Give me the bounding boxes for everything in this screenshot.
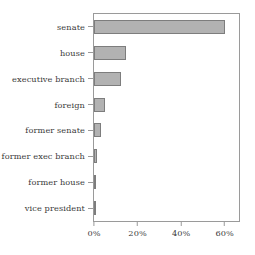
bar-former-senate: [94, 123, 101, 137]
y-tick-mark: [88, 104, 93, 105]
y-tick-former-senate: former senate: [25, 123, 93, 137]
y-tick-label: former house: [28, 177, 85, 187]
bars-layer: [94, 14, 240, 221]
y-tick-label: vice president: [25, 203, 85, 213]
y-tick-label: former senate: [25, 125, 85, 135]
y-tick-former-exec-branch: former exec branch: [2, 149, 93, 163]
x-axis-ticks: 0%20%40%60%: [0, 222, 255, 255]
y-tick-label: former exec branch: [2, 151, 85, 161]
x-tick-20pct: 20%: [128, 222, 147, 238]
y-tick-mark: [88, 208, 93, 209]
x-tick-mark: [93, 222, 94, 226]
bar-rect: [94, 175, 96, 189]
x-tick-label: 40%: [172, 228, 191, 238]
bar-former-exec-branch: [94, 149, 97, 163]
y-tick-mark: [88, 130, 93, 131]
y-tick-mark: [88, 182, 93, 183]
x-tick-0pct: 0%: [87, 222, 100, 238]
bar-chart: senatehouseexecutive branchforeignformer…: [0, 0, 255, 255]
x-tick-mark: [224, 222, 225, 226]
y-tick-foreign: foreign: [54, 98, 93, 112]
y-tick-senate: senate: [57, 20, 93, 34]
bar-foreign: [94, 98, 105, 112]
bar-rect: [94, 201, 96, 215]
bar-rect: [94, 123, 101, 137]
bar-vice-president: [94, 201, 96, 215]
y-tick-label: senate: [57, 22, 85, 32]
x-tick-label: 0%: [87, 228, 100, 238]
x-tick-mark: [181, 222, 182, 226]
y-tick-label: foreign: [54, 100, 85, 110]
bar-house: [94, 46, 126, 60]
x-tick-60pct: 60%: [215, 222, 234, 238]
bar-senate: [94, 20, 225, 34]
bar-rect: [94, 98, 105, 112]
y-axis-labels: senatehouseexecutive branchforeignformer…: [0, 14, 93, 221]
y-tick-former-house: former house: [28, 175, 93, 189]
y-tick-house: house: [60, 46, 93, 60]
x-tick-label: 20%: [128, 228, 147, 238]
y-tick-label: house: [60, 48, 85, 58]
y-tick-vice-president: vice president: [25, 201, 93, 215]
bar-rect: [94, 46, 126, 60]
bar-rect: [94, 72, 121, 86]
x-tick-label: 60%: [215, 228, 234, 238]
bar-rect: [94, 20, 225, 34]
y-tick-executive-branch: executive branch: [12, 72, 93, 86]
bar-executive-branch: [94, 72, 121, 86]
y-tick-mark: [88, 26, 93, 27]
bar-rect: [94, 149, 97, 163]
bar-former-house: [94, 175, 96, 189]
y-tick-mark: [88, 156, 93, 157]
y-tick-label: executive branch: [12, 74, 85, 84]
x-tick-40pct: 40%: [172, 222, 191, 238]
x-tick-mark: [137, 222, 138, 226]
y-tick-mark: [88, 52, 93, 53]
y-tick-mark: [88, 78, 93, 79]
